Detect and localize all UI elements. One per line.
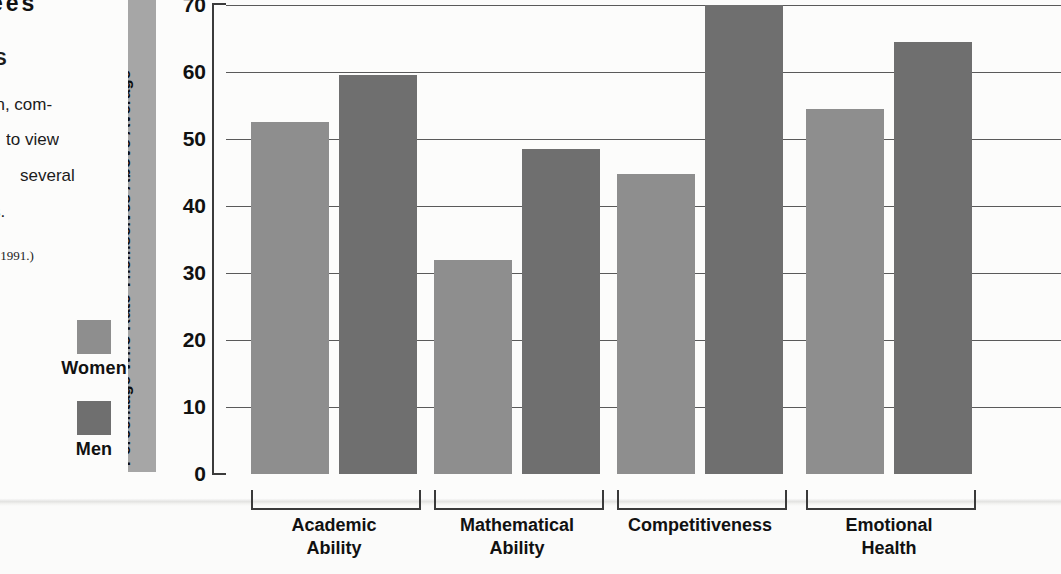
body-heading-fragment: ees [0,0,37,17]
category-bracket-emotional-health [806,490,976,510]
category-label-line: Health [780,537,998,560]
body-line-1: en, com- [0,95,52,115]
category-axis: AcademicAbilityMathematicalAbilityCompet… [156,0,1061,574]
body-line-2: to view [6,130,59,150]
y-axis-title-band: Percentage Who Rate Themselves Above Ave… [128,0,156,472]
body-source-citation-fragment: e, 1991.) [0,248,34,264]
category-label-competitiveness: Competitiveness [591,514,809,537]
body-line-4: s. [0,202,5,222]
legend-swatch-men-icon [77,401,111,435]
category-label-emotional-health: EmotionalHealth [780,514,998,560]
body-line-3: several [20,166,75,186]
screenshot-page: ees S en, com- to view several s. e, 199… [0,0,1061,574]
y-axis-title: Percentage Who Rate Themselves Above Ave… [128,70,134,466]
category-bracket-mathematical-ability [434,490,604,510]
legend-swatch-women-icon [77,320,111,354]
category-label-line: Competitiveness [591,514,809,537]
left-column-body-text: ees S en, com- to view several s. e, 199… [0,0,120,300]
category-label-line: Ability [408,537,626,560]
category-bracket-competitiveness [617,490,787,510]
body-subheading-fragment: S [0,48,8,70]
category-bracket-academic-ability [251,490,421,510]
category-label-line: Emotional [780,514,998,537]
